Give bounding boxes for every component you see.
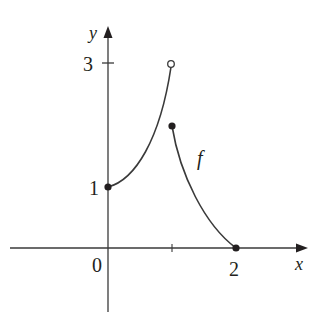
y-axis-arrow-icon [104, 26, 113, 38]
x-axis-label: x [294, 254, 303, 274]
curve-right-branch [172, 126, 236, 248]
y-tick-label-3: 3 [83, 53, 93, 75]
closed-point-0-1 [104, 183, 111, 190]
y-axis-label: y [87, 23, 97, 43]
y-tick-label-1: 1 [89, 177, 99, 199]
closed-point-2-0 [232, 244, 239, 251]
function-graph: y 3 1 0 2 x f [0, 0, 327, 317]
open-point-1-3 [168, 61, 175, 68]
x-tick-label-0: 0 [92, 254, 102, 276]
x-axis-arrow-icon [296, 244, 308, 253]
x-tick-label-2: 2 [229, 258, 239, 280]
x-axis [10, 244, 308, 253]
function-label: f [197, 147, 205, 170]
y-axis [104, 26, 113, 312]
closed-point-1-2 [168, 122, 175, 129]
curve-left-branch [108, 67, 171, 187]
